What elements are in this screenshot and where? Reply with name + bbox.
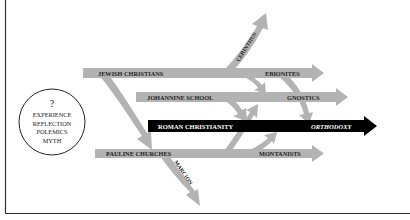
- jewish-to-pauline-curve: [98, 72, 152, 150]
- circle-line-polemics: POLEMICS: [36, 128, 68, 135]
- label-cerinthus: CERINTHUS: [235, 31, 258, 62]
- sources-circle: ? EXPERIENCE REFLECTION POLEMICS MYTH: [19, 89, 85, 155]
- label-ebionites: EBIONITES: [265, 70, 300, 77]
- circle-line-myth: MYTH: [43, 137, 62, 144]
- label-johannine-school: JOHANNINE SCHOOL: [147, 94, 213, 101]
- christianity-streams-diagram: JEWISH CHRISTIANS EBIONITES JOHANNINE SC…: [0, 0, 410, 220]
- label-jewish-christians: JEWISH CHRISTIANS: [98, 70, 164, 77]
- label-montanists: MONTANISTS: [259, 150, 301, 157]
- label-gnostics: GNOSTICS: [287, 94, 320, 101]
- circle-line-reflection: REFLECTION: [33, 120, 72, 127]
- label-orthodoxy: ORTHODOXY: [311, 123, 352, 130]
- circle-line-experience: EXPERIENCE: [33, 111, 72, 118]
- label-roman-christianity: ROMAN CHRISTIANITY: [158, 123, 234, 130]
- label-pauline-churches: PAULINE CHURCHES: [106, 150, 172, 157]
- circle-question-mark: ?: [50, 98, 55, 109]
